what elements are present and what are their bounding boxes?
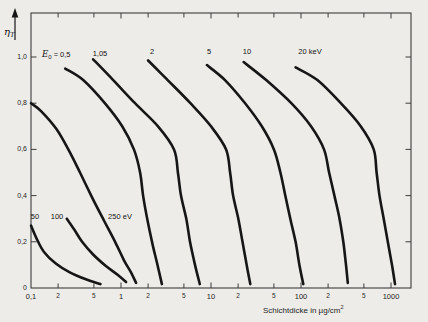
curve-label-10kev: 10 bbox=[243, 47, 251, 56]
x-axis-title-text: Schichtdicke in µg/cm bbox=[263, 306, 341, 315]
y-tick-label-0-8: 0,8 bbox=[5, 99, 27, 107]
y-tick-label-0: 0 bbox=[5, 284, 27, 292]
curve-label-100ev: 100 bbox=[51, 212, 64, 221]
x-tick-label-10: 10 bbox=[207, 293, 215, 301]
curve-label-50ev: 50 bbox=[31, 212, 39, 221]
x-axis-title: Schichtdicke in µg/cm2 bbox=[263, 303, 344, 315]
curve-label-e0-0p5kev: E0 = 0,5 bbox=[42, 49, 71, 60]
y-tick-label-0-6: 0,6 bbox=[5, 145, 27, 153]
curve-50-eV bbox=[31, 226, 100, 285]
e0-subscript: 0 bbox=[48, 54, 51, 60]
curve-5-keV bbox=[207, 65, 303, 284]
curve-label-1p05kev: 1,05 bbox=[93, 49, 108, 58]
eta-subscript: T bbox=[10, 31, 15, 39]
x-minor-tick-label-7-5: 5 bbox=[362, 292, 366, 299]
curve-100-eV bbox=[67, 219, 126, 282]
curve-label-5kev: 5 bbox=[207, 47, 211, 56]
x-minor-tick-label-0-2: 2 bbox=[56, 292, 60, 299]
e0-value: = 0,5 bbox=[52, 50, 71, 59]
curve-label-20kev: 20 keV bbox=[298, 47, 321, 56]
x-minor-tick-label-6-2: 2 bbox=[326, 292, 330, 299]
x-minor-tick-label-1-5: 5 bbox=[92, 292, 96, 299]
x-tick-label-1000: 1000 bbox=[383, 293, 400, 301]
transmission-figure: ηT E0 = 0,5 Schichtdicke in µg/cm2 1,00,… bbox=[0, 0, 428, 322]
y-tick-label-0-2: 0,2 bbox=[5, 238, 27, 246]
curve-0-5-keV bbox=[65, 69, 162, 285]
x-minor-tick-label-3-5: 5 bbox=[182, 292, 186, 299]
y-tick-label-0-4: 0,4 bbox=[5, 192, 27, 200]
curve-2-keV bbox=[148, 61, 250, 285]
x-tick-label-100: 100 bbox=[295, 293, 308, 301]
curve-label-2kev: 2 bbox=[150, 47, 154, 56]
y-axis-label: ηT bbox=[4, 26, 15, 39]
x-axis-title-exponent: 2 bbox=[341, 304, 344, 310]
x-tick-label-0-1: 0,1 bbox=[26, 293, 36, 301]
curve-1-05-keV bbox=[93, 59, 200, 284]
curve-label-250ev: 250 eV bbox=[108, 212, 132, 221]
x-tick-label-1: 1 bbox=[119, 293, 123, 301]
y-tick-label-1-0: 1,0 bbox=[5, 53, 27, 61]
x-minor-tick-label-2-2: 2 bbox=[146, 292, 150, 299]
x-minor-tick-label-5-5: 5 bbox=[272, 292, 276, 299]
x-minor-tick-label-4-2: 2 bbox=[236, 292, 240, 299]
